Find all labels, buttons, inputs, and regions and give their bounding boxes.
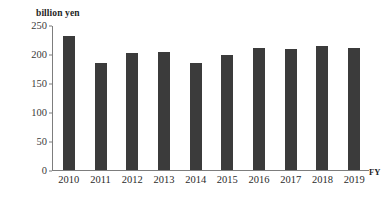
bar-slot	[53, 26, 85, 170]
bar	[126, 53, 138, 170]
bar-slot	[275, 26, 307, 170]
bars-layer	[53, 26, 369, 170]
y-axis-tick-mark	[49, 171, 52, 172]
bar	[190, 63, 202, 170]
x-axis-tick-label: 2014	[180, 174, 212, 186]
bar	[158, 52, 170, 170]
x-axis-tick-label: 2017	[275, 174, 307, 186]
x-axis-tick-label: 2012	[116, 174, 148, 186]
x-axis-caption: FY	[369, 167, 380, 177]
bar-slot	[338, 26, 370, 170]
bar-slot	[180, 26, 212, 170]
bar-chart: billion yen 250200150100500 201020112012…	[0, 0, 387, 202]
bar	[221, 55, 233, 170]
x-axis-tick-label: 2015	[212, 174, 244, 186]
bar-slot	[148, 26, 180, 170]
y-axis-tick-mark	[49, 55, 52, 56]
bar	[285, 49, 297, 170]
plot-area: 250200150100500	[52, 26, 369, 171]
bar	[348, 48, 360, 170]
bar	[63, 36, 75, 170]
y-axis-tick-mark	[49, 84, 52, 85]
bar-slot	[307, 26, 339, 170]
bar	[95, 63, 107, 170]
bar-slot	[243, 26, 275, 170]
bar	[253, 48, 265, 170]
y-axis-tick-mark	[49, 142, 52, 143]
bar	[316, 46, 328, 170]
bar-slot	[212, 26, 244, 170]
x-axis-tick-label: 2018	[307, 174, 339, 186]
x-axis-line	[52, 170, 369, 171]
y-axis-tick-mark	[49, 113, 52, 114]
x-axis-tick-label: 2010	[53, 174, 85, 186]
x-axis-tick-label: 2013	[148, 174, 180, 186]
x-axis-labels: 2010201120122013201420152016201720182019	[53, 174, 370, 192]
x-axis-tick-label: 2019	[338, 174, 370, 186]
x-axis-tick-label: 2016	[243, 174, 275, 186]
x-axis-tick-label: 2011	[85, 174, 117, 186]
bar-slot	[116, 26, 148, 170]
y-axis-unit-label: billion yen	[36, 8, 80, 18]
bar-slot	[85, 26, 117, 170]
y-axis-tick-mark	[49, 26, 52, 27]
